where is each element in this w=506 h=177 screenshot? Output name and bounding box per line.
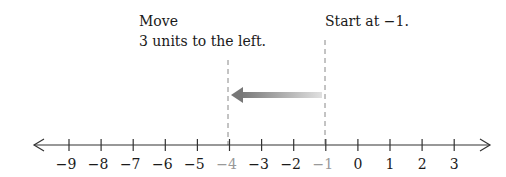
tick-label: −8 (88, 156, 109, 172)
tick-label: −3 (248, 156, 269, 172)
move-left-arrow-icon (231, 87, 322, 103)
tick-group: −9−8−7−6−5−4−3−2−10123 (56, 139, 459, 172)
tick-label: −1 (312, 156, 333, 172)
tick-label: 3 (450, 156, 459, 172)
tick-label: −4 (216, 156, 237, 172)
tick-label: −5 (184, 156, 205, 172)
move-label-line2: 3 units to the left. (139, 33, 266, 49)
number-line-diagram: Move 3 units to the left. Start at −1. −… (0, 0, 506, 177)
start-label: Start at −1. (325, 13, 409, 29)
tick-label: 1 (386, 156, 395, 172)
tick-label: −9 (56, 156, 77, 172)
tick-label: −7 (120, 156, 141, 172)
tick-label: 0 (353, 156, 362, 172)
tick-label: −2 (280, 156, 301, 172)
tick-label: 2 (418, 156, 427, 172)
tick-label: −6 (152, 156, 173, 172)
move-label-line1: Move (139, 13, 178, 29)
